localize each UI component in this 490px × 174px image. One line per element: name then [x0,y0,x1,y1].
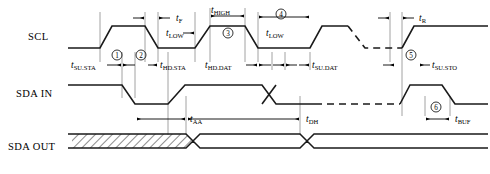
timing-diagram: SCL SDA IN SDA OUT [0,0,490,174]
signal-label-sda-out: SDA OUT [8,141,56,152]
param-t-buf: tBUF [455,114,471,125]
waveform-sda-out [68,134,488,148]
signal-label-sda-in: SDA IN [16,88,53,99]
svg-text:3: 3 [226,30,230,38]
guide-lines [100,8,450,135]
signal-label-scl: SCL [28,31,48,42]
param-t-hd-sta: tHD.STA [160,60,186,71]
svg-text:6: 6 [434,104,438,112]
param-t-dh: tDH [306,114,318,125]
param-t-su-sta: tSU.STA [71,60,96,71]
marker-6: 6 [431,102,441,112]
param-t-aa: tAA [190,114,202,125]
param-t-low-1: tLOW [166,28,184,39]
svg-text:5: 5 [409,52,413,60]
marker-5: 5 [406,50,416,60]
marker-1: 1 [112,50,122,60]
param-t-f: tF [176,13,183,24]
marker-2: 2 [136,50,146,60]
param-t-high: tHIGH [211,5,230,16]
param-t-r: tR [419,13,427,24]
param-t-su-sto: tSU.STO [432,60,457,71]
svg-text:2: 2 [139,52,143,60]
timing-diagram-canvas: SCL SDA IN SDA OUT [0,0,490,174]
param-t-hd-dat: tHD.DAT [205,60,232,71]
marker-3: 3 [223,28,233,38]
sda-out-hatched-region [72,134,192,148]
param-t-low-2: tLOW [266,28,284,39]
svg-text:4: 4 [279,11,283,19]
param-t-su-dat: tSU.DAT [312,60,338,71]
svg-text:1: 1 [115,52,119,60]
marker-4: 4 [276,9,286,19]
